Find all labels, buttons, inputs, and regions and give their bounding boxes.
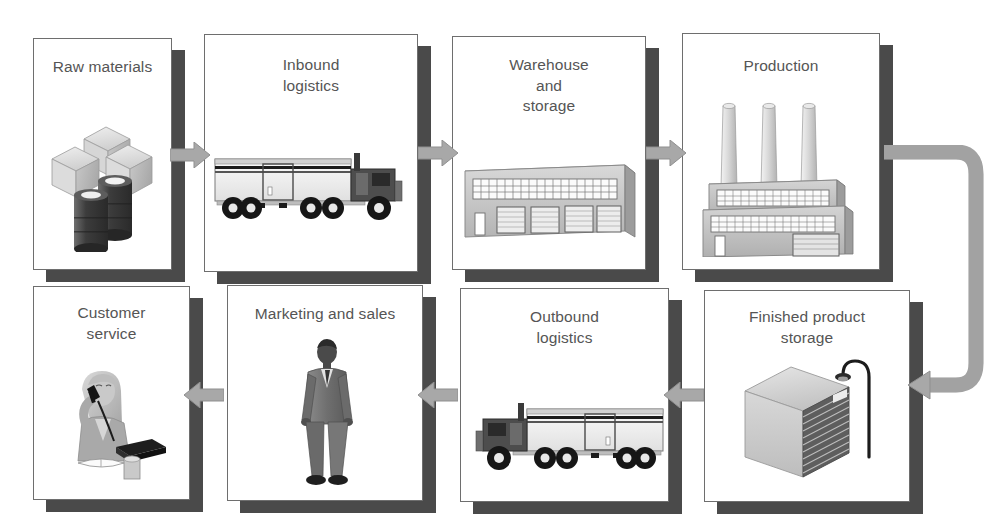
node-inbound-logistics-title: Inbound logistics bbox=[205, 55, 417, 96]
crates-and-barrels-icon bbox=[48, 117, 160, 252]
node-marketing-and-sales[interactable]: Marketing and sales bbox=[227, 285, 423, 501]
title-line: Finished product bbox=[705, 307, 909, 328]
agent-on-phone-icon bbox=[62, 367, 172, 485]
arrow-raw-to-inbound-icon bbox=[170, 142, 210, 168]
storage-crate-with-lamp-icon bbox=[739, 353, 879, 489]
node-finished-product-storage[interactable]: Finished product storage bbox=[704, 290, 910, 502]
node-production[interactable]: Production bbox=[682, 33, 880, 270]
arrow-marketing-to-customer-service-icon bbox=[184, 382, 224, 408]
title-line: Customer bbox=[34, 303, 189, 324]
title-line: and bbox=[453, 76, 645, 97]
node-outbound-logistics-title: Outbound logistics bbox=[461, 307, 668, 348]
arrow-production-to-finished-storage-icon bbox=[884, 145, 997, 410]
node-warehouse-and-storage-title: Warehouse and storage bbox=[453, 55, 645, 117]
node-outbound-logistics[interactable]: Outbound logistics bbox=[460, 288, 669, 502]
arrow-outbound-to-marketing-icon bbox=[418, 382, 458, 408]
node-raw-materials[interactable]: Raw materials bbox=[33, 38, 172, 270]
factory-with-smokestacks-icon bbox=[701, 92, 867, 257]
arrow-inbound-to-warehouse-icon bbox=[418, 140, 458, 166]
node-finished-product-storage-title: Finished product storage bbox=[705, 307, 909, 348]
title-line: Production bbox=[683, 56, 879, 77]
node-production-title: Production bbox=[683, 56, 879, 77]
node-raw-materials-title: Raw materials bbox=[34, 57, 171, 78]
title-line: Marketing and sales bbox=[228, 304, 422, 325]
title-line: logistics bbox=[461, 328, 668, 349]
node-marketing-and-sales-title: Marketing and sales bbox=[228, 304, 422, 325]
title-line: Inbound bbox=[205, 55, 417, 76]
arrow-finished-storage-to-outbound-icon bbox=[664, 382, 704, 408]
node-inbound-logistics[interactable]: Inbound logistics bbox=[204, 34, 418, 272]
node-warehouse-and-storage[interactable]: Warehouse and storage bbox=[452, 36, 646, 270]
businessman-standing-icon bbox=[290, 338, 364, 490]
title-line: Outbound bbox=[461, 307, 668, 328]
semi-truck-facing-left-icon bbox=[465, 395, 667, 477]
arrow-warehouse-to-production-icon bbox=[646, 140, 686, 166]
node-customer-service[interactable]: Customer service bbox=[33, 286, 190, 500]
title-line: logistics bbox=[205, 76, 417, 97]
title-line: service bbox=[34, 324, 189, 345]
title-line: Warehouse bbox=[453, 55, 645, 76]
node-customer-service-title: Customer service bbox=[34, 303, 189, 344]
warehouse-building-icon bbox=[459, 157, 641, 245]
title-line: storage bbox=[705, 328, 909, 349]
semi-truck-facing-right-icon bbox=[211, 145, 413, 227]
supply-chain-diagram: Raw materials bbox=[0, 0, 997, 531]
title-line: Raw materials bbox=[34, 57, 171, 78]
title-line: storage bbox=[453, 96, 645, 117]
